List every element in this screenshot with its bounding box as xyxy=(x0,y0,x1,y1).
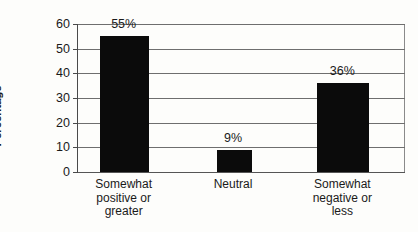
y-axis-tick xyxy=(73,147,78,148)
bar xyxy=(217,150,252,172)
plot-area: 0102030405060 xyxy=(77,24,405,172)
y-axis-tick-label: 50 xyxy=(56,42,70,56)
y-axis-tick-label: 40 xyxy=(56,66,70,80)
bar-value-label: 55% xyxy=(111,17,136,31)
y-axis-tick-label: 10 xyxy=(56,140,70,154)
y-axis-tick xyxy=(73,172,78,173)
x-axis-category-label: Somewhatpositive orgreater xyxy=(95,178,152,219)
bar-chart-figure: Percentage 0102030405060 55%9%36% Somewh… xyxy=(0,0,418,232)
bar-value-label: 36% xyxy=(330,64,355,78)
gridline xyxy=(78,172,405,173)
bar xyxy=(100,36,149,172)
x-axis-category-label-line: Neutral xyxy=(214,178,253,192)
x-axis-category-label: Neutral xyxy=(214,178,253,192)
x-axis-category-label: Somewhatnegative orless xyxy=(313,178,372,219)
x-axis-category-label-line: Somewhat xyxy=(95,178,152,192)
y-axis-tick xyxy=(73,24,78,25)
y-axis-tick xyxy=(73,98,78,99)
y-axis-tick-label: 0 xyxy=(63,165,70,179)
bar-value-label: 9% xyxy=(224,131,242,145)
bar xyxy=(317,83,369,172)
y-axis-title: Percentage xyxy=(0,0,28,232)
y-axis-tick xyxy=(73,123,78,124)
y-axis-tick xyxy=(73,73,78,74)
y-axis-tick-label: 60 xyxy=(56,17,70,31)
y-axis-tick xyxy=(73,49,78,50)
x-axis-category-label-line: negative or xyxy=(313,192,372,206)
x-axis-category-label-line: greater xyxy=(95,205,152,219)
x-axis-category-label-line: positive or xyxy=(95,192,152,206)
y-axis-tick-label: 30 xyxy=(56,91,70,105)
y-axis-title-text: Percentage xyxy=(0,86,3,147)
y-axis-tick-label: 20 xyxy=(56,116,70,130)
x-axis-category-label-line: less xyxy=(313,205,372,219)
x-axis-category-label-line: Somewhat xyxy=(313,178,372,192)
